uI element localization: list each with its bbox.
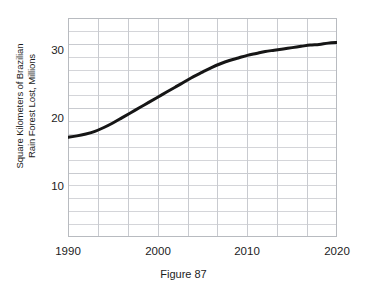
x-tick-label-2010: 2010	[224, 245, 270, 257]
x-tick-label-2000: 2000	[135, 245, 181, 257]
plot-area	[68, 18, 337, 237]
x-tick-label-1990: 1990	[45, 245, 91, 257]
data-series-line	[68, 42, 337, 137]
x-tick-label-2020: 2020	[314, 245, 360, 257]
grid-lines-minor	[68, 32, 337, 225]
figure-container: Square Kilometers of Brazilian Rain Fore…	[0, 0, 367, 291]
grid-lines-major	[68, 18, 337, 237]
figure-caption: Figure 87	[0, 268, 367, 280]
line-chart-svg	[68, 18, 337, 237]
plot-frame	[69, 19, 337, 237]
